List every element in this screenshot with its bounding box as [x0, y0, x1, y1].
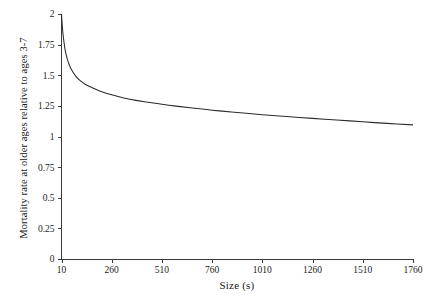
- y-axis-ticks: 00.250.50.7511.251.51.752: [38, 9, 62, 264]
- x-tick-label: 1510: [353, 265, 372, 275]
- x-tick-label: 1760: [404, 265, 423, 275]
- y-tick-label: 1.25: [38, 101, 55, 111]
- x-tick-label: 10: [57, 265, 67, 275]
- data-series-line: [62, 14, 414, 125]
- x-axis-ticks: 102605107601010126015101760: [57, 259, 423, 275]
- y-tick-label: 0.5: [43, 193, 55, 203]
- y-axis-title: Mortality rate at older ages relative to…: [16, 4, 32, 272]
- x-axis-title: Size (s): [61, 279, 413, 291]
- chart-figure: 00.250.50.7511.251.51.752 10260510760101…: [0, 0, 434, 306]
- x-tick-label: 1010: [253, 265, 272, 275]
- x-tick-label: 260: [105, 265, 120, 275]
- y-tick-label: 2: [50, 9, 55, 19]
- y-tick-label: 1.5: [43, 71, 55, 81]
- y-tick-label: 0.25: [38, 224, 55, 234]
- y-tick-label: 0.75: [38, 163, 55, 173]
- x-tick-label: 510: [155, 265, 170, 275]
- y-tick-label: 1: [50, 132, 55, 142]
- y-tick-label: 1.75: [38, 40, 55, 50]
- x-tick-label: 1260: [303, 265, 322, 275]
- line-chart-plot: 00.250.50.7511.251.51.752 10260510760101…: [0, 0, 434, 306]
- x-tick-label: 760: [205, 265, 220, 275]
- y-tick-label: 0: [50, 254, 55, 264]
